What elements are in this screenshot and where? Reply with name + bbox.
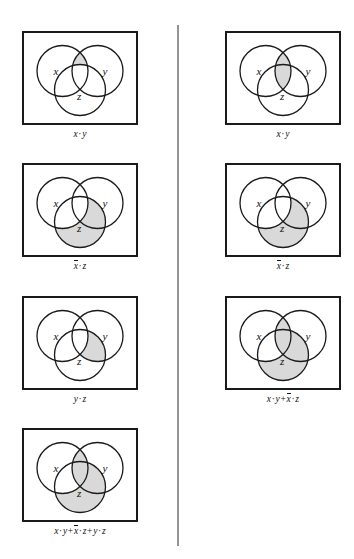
- panel-caption: x·z: [22, 261, 138, 271]
- caption-negated-var: x: [287, 394, 291, 404]
- venn-diagram: xyz: [24, 430, 136, 520]
- circle-label-z: z: [279, 355, 285, 367]
- venn-panel: xyz x·y: [22, 31, 138, 139]
- venn-panel: xyz x·z: [225, 163, 341, 271]
- panel-caption: x·y: [225, 129, 341, 139]
- circle-label-y: y: [305, 65, 311, 77]
- shaded-regions: [24, 33, 136, 123]
- circle-label-x: x: [53, 197, 59, 209]
- caption-negated-var: x: [277, 261, 281, 271]
- panel-border-box: xyz: [22, 428, 138, 522]
- column-divider: [177, 25, 179, 546]
- panel-border-box: xyz: [225, 163, 341, 257]
- panel-border-box: xyz: [22, 296, 138, 390]
- caption-var: y: [285, 129, 289, 139]
- caption-negated-var: x: [74, 526, 78, 536]
- caption-var: x: [54, 526, 58, 536]
- caption-var: y: [93, 526, 97, 536]
- venn-figure: xyz x·y xyz x·y: [0, 0, 354, 559]
- venn-diagram: xyz: [227, 165, 339, 255]
- shaded-regions: [24, 430, 136, 520]
- caption-var: y: [82, 129, 86, 139]
- venn-panel: xyz x·y+x·z+y·z: [22, 428, 138, 536]
- shaded-regions: [24, 165, 136, 255]
- shaded-regions: [227, 33, 339, 123]
- venn-panel: xyz y·z: [22, 296, 138, 404]
- shaded-regions: [227, 165, 339, 255]
- circle-label-z: z: [279, 90, 285, 102]
- shaded-regions: [227, 298, 339, 388]
- circle-label-x: x: [256, 330, 262, 342]
- caption-var: z: [295, 394, 299, 404]
- circle-label-z: z: [76, 222, 82, 234]
- venn-diagram: xyz: [24, 33, 136, 123]
- circle-label-y: y: [102, 462, 108, 474]
- venn-diagram: xyz: [24, 165, 136, 255]
- caption-var: z: [102, 526, 106, 536]
- circle-label-y: y: [102, 65, 108, 77]
- circle-label-y: y: [102, 197, 108, 209]
- circle-label-x: x: [53, 330, 59, 342]
- panel-caption: x·y+x·z: [225, 394, 341, 404]
- circle-label-z: z: [279, 222, 285, 234]
- circle-label-y: y: [305, 197, 311, 209]
- venn-panel: xyz x·y+x·z: [225, 296, 341, 404]
- venn-panel: xyz x·z: [22, 163, 138, 271]
- caption-negated-var: x: [74, 261, 78, 271]
- panel-caption: x·y: [22, 129, 138, 139]
- circle-label-y: y: [102, 330, 108, 342]
- venn-diagram: xyz: [227, 298, 339, 388]
- venn-diagram: xyz: [24, 298, 136, 388]
- circle-label-x: x: [53, 65, 59, 77]
- circle-label-z: z: [76, 90, 82, 102]
- panel-border-box: xyz: [225, 296, 341, 390]
- circle-label-x: x: [256, 65, 262, 77]
- panel-border-box: xyz: [225, 31, 341, 125]
- venn-panel: xyz x·y: [225, 31, 341, 139]
- venn-diagram: xyz: [227, 33, 339, 123]
- panel-border-box: xyz: [22, 163, 138, 257]
- circle-label-x: x: [53, 462, 59, 474]
- panel-caption: x·z: [225, 261, 341, 271]
- caption-var: z: [285, 261, 289, 271]
- panel-caption: x·y+x·z+y·z: [22, 526, 138, 536]
- caption-var: z: [82, 261, 86, 271]
- circle-label-z: z: [76, 355, 82, 367]
- shaded-regions: [24, 298, 136, 388]
- circle-label-y: y: [305, 330, 311, 342]
- panel-border-box: xyz: [22, 31, 138, 125]
- circle-label-x: x: [256, 197, 262, 209]
- panel-caption: y·z: [22, 394, 138, 404]
- caption-var: z: [82, 394, 86, 404]
- circle-label-z: z: [76, 487, 82, 499]
